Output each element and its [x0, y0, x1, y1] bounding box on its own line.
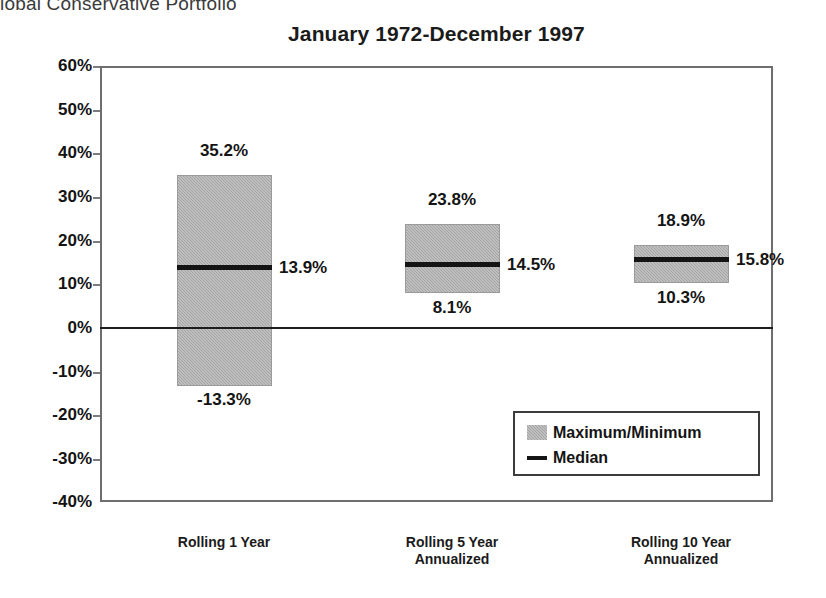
max-value-label-rolling-5-year: 23.8%: [428, 190, 476, 210]
y-axis: 60% 50% 40% 30% 20% 10% 0% -10% -20% -30…: [22, 0, 92, 598]
max-value-label-rolling-10-year: 18.9%: [657, 211, 705, 231]
y-tick-label: 40%: [28, 143, 92, 163]
max-value-label-rolling-1-year: 35.2%: [200, 141, 248, 161]
legend-label-median: Median: [553, 449, 608, 467]
legend-item-median: Median: [527, 445, 758, 470]
y-tick-label: 30%: [28, 187, 92, 207]
x-axis-label-rolling-5-year: Rolling 5 Year Annualized: [342, 534, 562, 568]
legend-swatch-icon: [527, 425, 547, 440]
y-tick-label: -10%: [28, 362, 92, 382]
median-value-label-rolling-5-year: 14.5%: [507, 255, 555, 275]
median-line-rolling-10-year: [634, 257, 729, 262]
y-tick-label: 60%: [28, 56, 92, 76]
chart-page: lobal Conservative Portfolio January 197…: [0, 0, 826, 598]
x-axis-label-line: Rolling 10 Year: [571, 534, 791, 551]
median-line-rolling-5-year: [405, 262, 500, 267]
range-bar-rolling-5-year[interactable]: [405, 224, 500, 293]
y-tick-label: 20%: [28, 231, 92, 251]
chart-title: January 1972-December 1997: [100, 22, 773, 46]
min-value-label-rolling-5-year: 8.1%: [433, 298, 472, 318]
x-axis-label-line: Annualized: [571, 551, 791, 568]
x-axis-label-rolling-1-year: Rolling 1 Year: [114, 534, 334, 551]
y-tick-label: 0%: [28, 318, 92, 338]
y-tick-label: 50%: [28, 100, 92, 120]
x-axis-label-line: Rolling 5 Year: [342, 534, 562, 551]
legend-item-maximum-minimum: Maximum/Minimum: [527, 420, 758, 445]
min-value-label-rolling-1-year: -13.3%: [197, 390, 251, 410]
legend: Maximum/Minimum Median: [513, 411, 760, 476]
y-tick-label: 10%: [28, 274, 92, 294]
y-tick-label: -40%: [28, 492, 92, 512]
y-tick-label: -30%: [28, 449, 92, 469]
x-axis-label-rolling-10-year: Rolling 10 Year Annualized: [571, 534, 791, 568]
min-value-label-rolling-10-year: 10.3%: [657, 288, 705, 308]
legend-label-maximum-minimum: Maximum/Minimum: [553, 424, 701, 442]
zero-baseline: [100, 327, 773, 329]
legend-line-icon: [527, 456, 547, 460]
y-tick-label: -20%: [28, 405, 92, 425]
median-value-label-rolling-10-year: 15.8%: [736, 250, 784, 270]
range-bar-rolling-1-year[interactable]: [177, 175, 272, 386]
x-axis-label-line: Annualized: [342, 551, 562, 568]
median-value-label-rolling-1-year: 13.9%: [279, 258, 327, 278]
range-bar-rolling-10-year[interactable]: [634, 245, 729, 283]
median-line-rolling-1-year: [177, 265, 272, 270]
x-axis-label-line: Rolling 1 Year: [114, 534, 334, 551]
